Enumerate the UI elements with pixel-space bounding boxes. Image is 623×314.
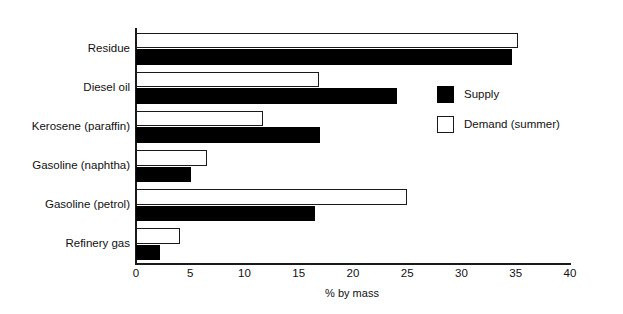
category-label: Gasoline (petrol) (2, 199, 130, 211)
x-tick-label: 40 (564, 268, 577, 280)
bar-supply (136, 49, 512, 65)
legend-label: Demand (summer) (464, 119, 560, 131)
bar-group (136, 186, 570, 225)
legend-swatch-supply-icon (437, 86, 454, 103)
category-label: Residue (2, 43, 130, 55)
x-tick-label: 25 (401, 268, 414, 280)
category-label: Gasoline (naphtha) (2, 160, 130, 172)
bar-supply (136, 245, 160, 261)
legend-label: Supply (464, 89, 499, 101)
chart-legend: SupplyDemand (summer) (437, 86, 617, 146)
x-tick-label: 15 (292, 268, 305, 280)
bar-demand (136, 150, 207, 166)
bar-group (136, 225, 570, 264)
x-tick-label: 35 (509, 268, 522, 280)
bar-group (136, 147, 570, 186)
category-label: Kerosene (paraffin) (2, 121, 130, 133)
x-axis-tick-labels: 0510152025303540 (0, 268, 623, 288)
plot-area (136, 29, 570, 264)
bar-chart: ResidueDiesel oilKerosene (paraffin)Gaso… (0, 0, 623, 314)
bar-supply (136, 127, 320, 143)
x-tick-label: 10 (238, 268, 251, 280)
bar-supply (136, 206, 315, 222)
legend-swatch-demand-icon (437, 116, 454, 133)
x-axis-title: % by mass (325, 287, 379, 299)
legend-item: Demand (summer) (437, 116, 617, 133)
bar-supply (136, 88, 397, 104)
legend-item: Supply (437, 86, 617, 103)
bar-group (136, 29, 570, 68)
bar-supply (136, 167, 191, 183)
bar-demand (136, 33, 518, 49)
category-label: Refinery gas (2, 238, 130, 250)
bar-demand (136, 111, 263, 127)
bar-demand (136, 228, 180, 244)
x-tick-label: 5 (187, 268, 193, 280)
bar-demand (136, 189, 407, 205)
x-tick-label: 20 (347, 268, 360, 280)
bar-demand (136, 72, 319, 88)
x-tick-label: 30 (455, 268, 468, 280)
category-label: Diesel oil (2, 82, 130, 94)
x-tick-label: 0 (133, 268, 139, 280)
category-axis-labels: ResidueDiesel oilKerosene (paraffin)Gaso… (0, 0, 130, 314)
